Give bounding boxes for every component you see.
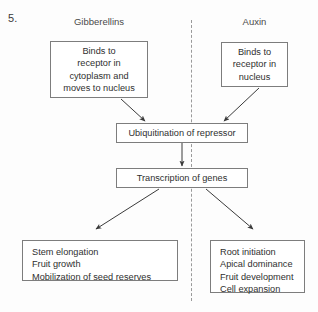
arrow-auxin-to-ubiquitination (224, 88, 259, 121)
arrow-gibberellin-to-ubiquitination (121, 99, 145, 121)
box-auxin-effects: Root initiation Apical dominance Fruit d… (210, 240, 305, 293)
box-line: receptor in (233, 58, 276, 70)
effect-item: Mobilization of seed reserves (32, 271, 177, 283)
effect-item: Cell expansion (220, 283, 304, 295)
box-line: receptor in (63, 57, 135, 69)
column-divider-dashed-line (191, 20, 192, 301)
effect-item: Fruit development (220, 271, 304, 283)
box-ubiquitination-of-repressor: Ubiquitination of repressor (116, 123, 248, 143)
diagram-canvas: 5. Gibberellins Auxin Binds to receptor … (0, 0, 318, 312)
arrow-transcription-to-auxin-effects (206, 189, 253, 229)
box-label: Ubiquitination of repressor (128, 127, 235, 139)
column-heading-gibberellins: Gibberellins (50, 16, 148, 27)
box-line: nucleus (233, 71, 276, 83)
effect-item: Root initiation (220, 246, 304, 258)
box-line: cytoplasm and (63, 70, 135, 82)
box-auxin-action: Binds to receptor in nucleus (221, 42, 288, 87)
effect-item: Apical dominance (220, 258, 304, 270)
box-line: moves to nucleus (63, 82, 135, 94)
box-line: Binds to (63, 45, 135, 57)
box-gibberellin-action: Binds to receptor in cytoplasm and moves… (50, 41, 148, 98)
box-transcription-of-genes: Transcription of genes (116, 168, 248, 188)
box-label: Transcription of genes (137, 172, 228, 184)
effect-item: Stem elongation (32, 246, 177, 258)
question-number: 5. (8, 12, 18, 24)
effect-item: Fruit growth (32, 258, 177, 270)
arrow-transcription-to-gibberellin-effects (96, 189, 159, 229)
box-line: Binds to (233, 46, 276, 58)
box-gibberellin-effects: Stem elongation Fruit growth Mobilizatio… (22, 240, 178, 281)
column-heading-auxin: Auxin (221, 16, 288, 27)
